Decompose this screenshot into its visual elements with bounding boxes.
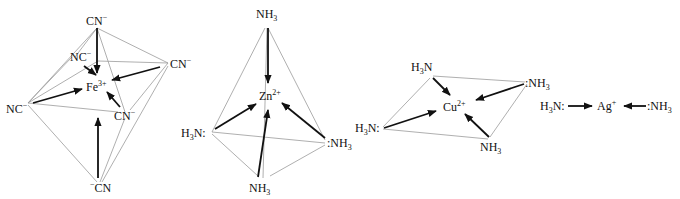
central-ion-cu: Cu2+: [443, 99, 466, 114]
zn-tetrahedral-complex: NH3 H3N: :NH3 NH3 Zn2+: [181, 7, 352, 197]
ligand-nh3-bottom: NH3: [480, 140, 501, 156]
central-ion-ag: Ag+: [597, 98, 617, 113]
ligand-h3n-left: H3N:: [540, 99, 565, 115]
central-ion-zn: Zn2+: [259, 88, 281, 103]
fe-octahedral-complex: CN− NC− CN− NC− CN− −CN Fe3+: [6, 13, 192, 195]
ligand-nh3-topright: :NH3: [525, 76, 550, 92]
ligand-nc-left: NC−: [6, 101, 28, 116]
ligand-nh3-top: NH3: [256, 7, 277, 23]
ligand-cn-right: CN−: [170, 56, 192, 71]
ligand-nh3-bottom: NH3: [249, 181, 270, 197]
ligand-nh3-right: :NH3: [647, 99, 672, 115]
ag-linear-complex: H3N: Ag+ :NH3: [540, 98, 672, 115]
central-ion-fe: Fe3+: [86, 79, 107, 94]
ligand-h3n-topleft: H3N: [411, 60, 433, 76]
ligand-nh3-right: :NH3: [327, 136, 352, 152]
ligand-cn-top: CN−: [86, 13, 108, 28]
ligand-h3n-left: H3N:: [181, 126, 206, 142]
ligand-cn-front: CN−: [114, 108, 136, 123]
coordinate-bond-arrows: [33, 28, 160, 178]
ligand-nc-back: NC−: [70, 49, 92, 64]
cu-square-planar-complex: H3N :NH3 H3N: NH3 Cu2+: [355, 60, 550, 156]
ligand-h3n-left: H3N:: [355, 121, 380, 137]
ligand-cn-bottom: −CN: [90, 180, 112, 195]
coordination-geometry-diagram: CN− NC− CN− NC− CN− −CN Fe3+ NH3 H3N: :N…: [0, 0, 680, 199]
